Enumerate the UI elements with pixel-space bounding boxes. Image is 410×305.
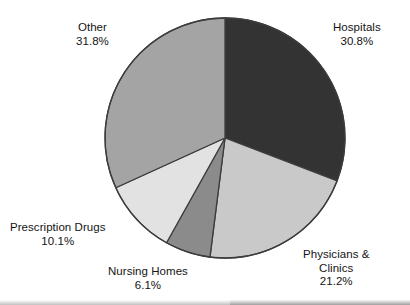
pie-label-physicians-clinics: Physicians & Clinics 21.2%	[303, 248, 369, 289]
pie-label-nursing-homes-value: 6.1%	[108, 279, 188, 293]
pie-label-physicians-clinics-value: 21.2%	[303, 275, 369, 289]
pie-label-physicians-clinics-name: Physicians &	[303, 248, 369, 262]
pie-slice-group	[105, 18, 345, 258]
pie-label-nursing-homes: Nursing Homes 6.1%	[108, 265, 188, 292]
pie-label-other-value: 31.8%	[76, 35, 109, 49]
pie-chart-screenshot: Hospitals 30.8% Other 31.8% Prescription…	[0, 0, 410, 305]
pie-label-physicians-clinics-name2: Clinics	[303, 262, 369, 276]
pie-label-other-name: Other	[76, 21, 109, 35]
pie-chart-figure: Hospitals 30.8% Other 31.8% Prescription…	[0, 0, 410, 305]
pie-label-hospitals: Hospitals 30.8%	[333, 21, 381, 48]
page-bottom-edge-right	[230, 300, 410, 305]
pie-label-prescription-drugs-value: 10.1%	[10, 235, 106, 249]
pie-label-prescription-drugs-name: Prescription Drugs	[10, 221, 106, 235]
pie-label-nursing-homes-name: Nursing Homes	[108, 265, 188, 279]
pie-label-other: Other 31.8%	[76, 21, 109, 48]
pie-label-hospitals-name: Hospitals	[333, 21, 381, 35]
pie-label-prescription-drugs: Prescription Drugs 10.1%	[10, 221, 106, 248]
pie-label-hospitals-value: 30.8%	[333, 35, 381, 49]
